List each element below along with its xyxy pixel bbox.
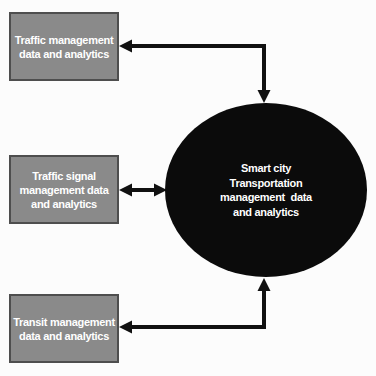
box-label-line: Transit management bbox=[13, 315, 115, 329]
hub-label-line: Smart city bbox=[241, 161, 291, 176]
arrowhead-left-icon bbox=[119, 321, 132, 334]
hub-label-line: and analytics bbox=[233, 205, 299, 220]
box-label-line: and analytics bbox=[31, 197, 97, 211]
box-label-line: Traffic signal bbox=[32, 169, 96, 183]
hub-smart-city-transportation: Smart city Transportation management dat… bbox=[165, 103, 367, 277]
connector-bottom-line bbox=[130, 289, 264, 327]
connector-traffic-management-to-hub bbox=[119, 40, 271, 104]
box-label-line: data and analytics bbox=[19, 47, 109, 61]
arrowhead-left-icon bbox=[119, 40, 132, 53]
box-label-line: management data bbox=[19, 183, 108, 197]
box-transit-management: Transit management data and analytics bbox=[9, 294, 119, 363]
connector-transit-to-hub bbox=[119, 278, 271, 334]
box-label-line: data and analytics bbox=[19, 329, 109, 343]
arrowhead-down-icon bbox=[258, 90, 271, 103]
box-label-line: Traffic management bbox=[15, 33, 114, 47]
connector-traffic-signal-to-hub bbox=[119, 184, 167, 197]
box-traffic-management: Traffic management data and analytics bbox=[9, 12, 119, 81]
hub-label-line: management data bbox=[220, 190, 312, 205]
arrowhead-left-icon bbox=[119, 184, 132, 197]
arrowhead-up-icon bbox=[258, 278, 271, 291]
hub-label-line: Transportation bbox=[230, 176, 303, 191]
box-traffic-signal-management: Traffic signal management data and analy… bbox=[9, 155, 119, 224]
smart-city-transportation-diagram: Traffic management data and analytics Tr… bbox=[0, 0, 376, 376]
connector-top-line bbox=[130, 46, 264, 92]
